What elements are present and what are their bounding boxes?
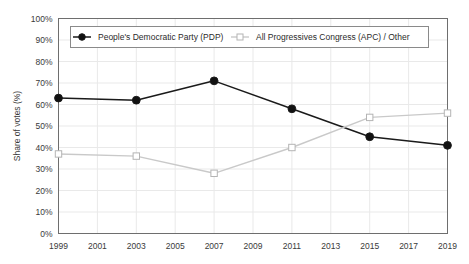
data-point-marker xyxy=(132,96,140,104)
y-axis-title: Share of votes (%) xyxy=(12,91,22,162)
y-tick-label: 20% xyxy=(35,186,52,196)
x-tick-label: 2015 xyxy=(360,241,379,251)
data-point-marker xyxy=(55,151,61,157)
data-point-marker xyxy=(367,114,373,120)
chart-container: 0%10%20%30%40%50%60%70%80%90%100% 199920… xyxy=(0,0,469,264)
y-tick-label: 100% xyxy=(31,14,53,24)
y-tick-label: 90% xyxy=(35,35,52,45)
data-point-marker xyxy=(366,133,374,141)
data-point-marker xyxy=(289,144,295,150)
data-point-marker xyxy=(133,153,139,159)
data-point-marker xyxy=(211,170,217,176)
chart-legend[interactable]: People's Democratic Party (PDP)All Progr… xyxy=(71,27,429,48)
x-tick-label: 2011 xyxy=(283,241,302,251)
x-tick-label: 2009 xyxy=(244,241,263,251)
legend-entry-apc-other[interactable]: All Progressives Congress (APC) / Other xyxy=(231,32,410,42)
x-tick-label: 2007 xyxy=(205,241,224,251)
data-point-marker xyxy=(55,94,63,102)
x-tick-label: 2017 xyxy=(399,241,418,251)
x-tick-label: 2005 xyxy=(166,241,185,251)
legend-label: All Progressives Congress (APC) / Other xyxy=(256,32,410,42)
x-tick-label: 2019 xyxy=(438,241,457,251)
data-point-marker xyxy=(210,77,218,85)
data-point-marker xyxy=(288,105,296,113)
legend-marker xyxy=(237,34,243,40)
x-tick-label: 2003 xyxy=(127,241,146,251)
y-tick-label: 30% xyxy=(35,164,52,174)
data-point-marker xyxy=(444,110,450,116)
y-tick-label: 0% xyxy=(40,229,53,239)
x-tick-label: 2001 xyxy=(88,241,107,251)
y-tick-label: 80% xyxy=(35,57,52,67)
legend-label: People's Democratic Party (PDP) xyxy=(98,32,224,42)
legend-marker xyxy=(79,34,86,41)
data-point-marker xyxy=(444,141,452,149)
y-tick-label: 40% xyxy=(35,143,52,153)
x-tick-label: 2013 xyxy=(321,241,340,251)
y-tick-label: 60% xyxy=(35,100,52,110)
vote-share-line-chart: 0%10%20%30%40%50%60%70%80%90%100% 199920… xyxy=(0,0,469,264)
y-axis-title-text: Share of votes (%) xyxy=(12,91,22,162)
y-tick-label: 10% xyxy=(35,207,52,217)
y-tick-label: 50% xyxy=(35,121,52,131)
x-tick-label: 1999 xyxy=(49,241,68,251)
y-tick-label: 70% xyxy=(35,78,52,88)
